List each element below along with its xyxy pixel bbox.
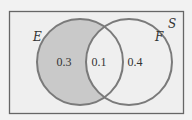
venn-diagram: S E F 0.3 0.1 0.4 xyxy=(0,0,192,120)
region-f-only-value: 0.4 xyxy=(128,55,143,69)
set-f-label: F xyxy=(154,30,164,44)
universe-label: S xyxy=(168,17,176,31)
region-e-only-value: 0.3 xyxy=(57,55,72,69)
set-e-label: E xyxy=(32,30,42,44)
region-intersection-value: 0.1 xyxy=(92,55,107,69)
